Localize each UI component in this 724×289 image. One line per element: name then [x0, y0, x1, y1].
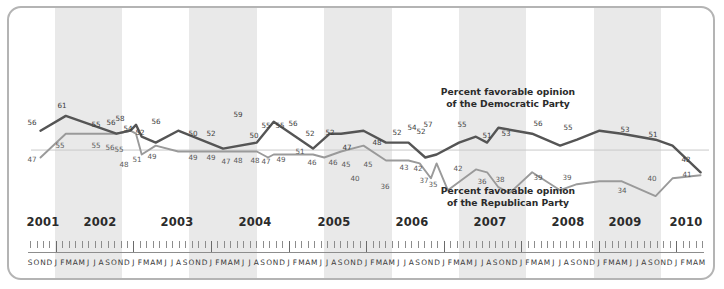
month-tick [263, 241, 264, 248]
month-tick [295, 241, 296, 248]
month-label: D [279, 258, 285, 267]
month-tick [379, 241, 380, 248]
month-tick [495, 241, 496, 248]
month-label: S [648, 258, 653, 267]
republican-point-label: 55 [55, 141, 64, 150]
month-label: J [404, 258, 406, 267]
month-label: D [434, 258, 440, 267]
month-label: O [344, 258, 350, 267]
month-tick [334, 241, 335, 248]
month-tick [689, 241, 690, 248]
month-label: J [287, 258, 289, 267]
month-label: A [305, 258, 310, 267]
month-label: J [397, 258, 399, 267]
republican-point-label: 45 [363, 160, 372, 169]
month-label: M [143, 258, 149, 267]
month-tick [696, 241, 697, 248]
month-tick [702, 241, 703, 248]
month-tick [547, 241, 548, 248]
month-label: J [365, 258, 367, 267]
month-tick [217, 241, 218, 248]
month-tick [618, 241, 619, 248]
month-tick [457, 241, 458, 248]
month-label: M [531, 258, 537, 267]
republican-point-label: 51 [295, 147, 304, 156]
month-tick [637, 241, 638, 248]
month-tick [631, 241, 632, 248]
month-label: J [630, 258, 632, 267]
month-tick [37, 241, 38, 248]
month-tick [289, 241, 290, 252]
annotation-republican-line1: Percent favorable opinion [423, 185, 593, 197]
month-label: A [641, 258, 646, 267]
month-label: S [28, 258, 33, 267]
month-label: J [132, 258, 134, 267]
month-tick [185, 241, 186, 248]
month-tick [431, 241, 432, 248]
year-label-2009: 2009 [608, 215, 641, 229]
democratic-point-label: 42 [681, 155, 690, 164]
month-label: J [520, 258, 522, 267]
annotation-republican: Percent favorable opinion of the Republi… [423, 185, 593, 209]
month-label: F [370, 258, 374, 267]
month-label: M [608, 258, 614, 267]
democratic-point-label: 55 [275, 121, 284, 130]
month-tick [108, 241, 109, 248]
month-label: S [183, 258, 188, 267]
democratic-point-label: 58 [115, 114, 124, 123]
month-tick [373, 241, 374, 248]
month-label: N [118, 258, 124, 267]
month-tick [366, 241, 367, 252]
month-label: M [699, 258, 705, 267]
month-label: F [215, 258, 219, 267]
month-label: J [242, 258, 244, 267]
month-label: J [249, 258, 251, 267]
republican-point-label: 38 [495, 175, 504, 184]
annotation-democratic: Percent favorable opinion of the Democra… [423, 86, 593, 110]
month-label: N [660, 258, 666, 267]
month-label: M [78, 258, 84, 267]
month-tick [153, 241, 154, 248]
democratic-point-label: 52 [206, 129, 215, 138]
month-tick [528, 241, 529, 248]
month-tick [49, 241, 50, 248]
month-label: J [326, 258, 328, 267]
month-label: M [686, 258, 692, 267]
republican-point-label: 51 [132, 155, 141, 164]
democratic-point-label: 57 [423, 120, 432, 129]
republican-point-label: 55 [114, 145, 123, 154]
republican-point-label: 35 [428, 180, 437, 189]
republican-point-label: 49 [188, 153, 197, 162]
month-label: O [421, 258, 427, 267]
annotation-republican-line2: of the Republican Party [423, 197, 593, 209]
republican-point-label: 42 [453, 164, 462, 173]
month-tick [566, 241, 567, 248]
month-tick [534, 241, 535, 248]
month-tick [321, 241, 322, 248]
month-tick [644, 241, 645, 248]
month-label: O [189, 258, 195, 267]
month-tick [385, 241, 386, 248]
democratic-point-label: 59 [233, 110, 242, 119]
month-tick [670, 241, 671, 248]
month-tick [159, 241, 160, 248]
democratic-point-label: 52 [305, 129, 314, 138]
month-label: S [105, 258, 110, 267]
month-tick [489, 241, 490, 248]
series-lines [9, 8, 715, 280]
month-tick [179, 241, 180, 248]
republican-point-label: 49 [206, 153, 215, 162]
republican-point-label: 39 [533, 173, 542, 182]
month-label: D [357, 258, 363, 267]
month-tick [146, 241, 147, 248]
republican-point-label: 42 [413, 164, 422, 173]
month-label: J [636, 258, 638, 267]
month-label: J [552, 258, 554, 267]
month-tick [663, 241, 664, 248]
month-label: N [195, 258, 201, 267]
month-label: A [486, 258, 491, 267]
month-label: M [621, 258, 627, 267]
month-tick [418, 241, 419, 248]
month-tick [353, 241, 354, 248]
month-tick [657, 241, 658, 248]
